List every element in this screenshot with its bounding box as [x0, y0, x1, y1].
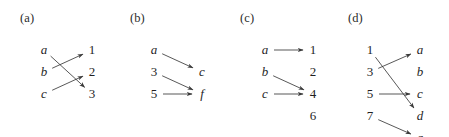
codomain-node-a: a: [413, 43, 427, 56]
domain-node-3: 3: [147, 65, 161, 78]
domain-node-c: c: [37, 87, 51, 100]
edge-1-to-d: [375, 57, 414, 108]
codomain-node-1: 1: [306, 43, 320, 56]
edge-c-to-2: [52, 76, 83, 90]
codomain-node-4: 4: [306, 87, 320, 100]
codomain-node-6: 6: [306, 109, 320, 122]
domain-node-5: 5: [363, 87, 377, 100]
domain-node-a: a: [258, 43, 272, 56]
edge-3-to-a: [378, 54, 411, 68]
domain-node-a: a: [147, 43, 161, 56]
domain-node-7: 7: [363, 109, 377, 122]
codomain-node-b: b: [413, 65, 427, 78]
codomain-node-1: 1: [85, 43, 99, 56]
codomain-node-d: d: [413, 109, 427, 122]
domain-node-a: a: [37, 43, 51, 56]
domain-node-c: c: [258, 87, 272, 100]
panel-a: (a)abc123: [0, 0, 110, 137]
edge-b-to-4: [273, 76, 304, 90]
domain-node-b: b: [258, 65, 272, 78]
domain-node-1: 1: [363, 43, 377, 56]
codomain-node-2: 2: [85, 65, 99, 78]
codomain-node-f: f: [195, 87, 209, 100]
panel-c: (c)abc1246: [221, 0, 331, 137]
edge-a-to-c: [162, 54, 193, 68]
edge-3-to-f: [162, 76, 193, 90]
panel-b: (b)a35cf: [110, 0, 220, 137]
codomain-node-c: c: [413, 87, 427, 100]
codomain-node-c: c: [195, 65, 209, 78]
relation-diagram-figure: (a)abc123(b)a35cf(c)abc1246(d)1357abcdg: [0, 0, 449, 137]
panel-d: (d)1357abcdg: [332, 0, 442, 137]
codomain-node-g: g: [413, 131, 427, 137]
codomain-node-3: 3: [85, 87, 99, 100]
domain-node-3: 3: [363, 65, 377, 78]
edge-7-to-g: [378, 120, 411, 134]
domain-node-b: b: [37, 65, 51, 78]
domain-node-5: 5: [147, 87, 161, 100]
codomain-node-2: 2: [306, 65, 320, 78]
